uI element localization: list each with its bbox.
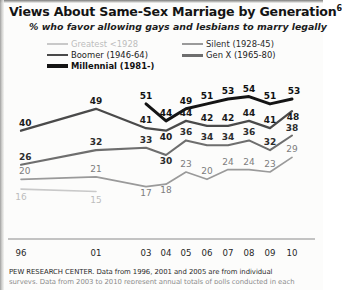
data-label: 33 — [140, 135, 153, 145]
legend-item-millennial: Millennial (1981-) — [47, 61, 154, 71]
x-tick-96: 96 — [16, 248, 27, 258]
legend-label-silent: Silent (1928-45) — [206, 39, 274, 49]
data-label: 23 — [180, 159, 191, 169]
data-label: 42 — [201, 113, 214, 123]
data-label: 40 — [160, 132, 173, 142]
series-line-greatest — [21, 189, 96, 191]
x-tick-09: 09 — [265, 248, 276, 258]
x-tick-06: 06 — [202, 248, 213, 258]
data-label: 36 — [180, 127, 193, 137]
x-tick-05: 05 — [181, 248, 192, 258]
legend-item-boomer: Boomer (1946-64) — [47, 50, 148, 60]
x-tick-03: 03 — [141, 248, 152, 258]
page-top-edge-artifact — [0, 0, 323, 3]
legend-swatch-silent-icon — [182, 43, 203, 45]
data-label: 54 — [243, 84, 256, 94]
data-label: 21 — [90, 164, 101, 174]
x-axis-tick-labels: 96010304050607080910 — [0, 248, 323, 262]
data-label: 51 — [264, 91, 277, 101]
x-tick-10: 10 — [287, 248, 298, 258]
x-tick-04: 04 — [161, 248, 172, 258]
data-label: 15 — [90, 195, 101, 205]
data-label: 23 — [264, 159, 275, 169]
data-label: 24 — [222, 157, 234, 167]
legend-label-boomer: Boomer (1946-64) — [71, 50, 148, 60]
data-label: 53 — [288, 86, 301, 96]
data-label: 53 — [222, 86, 235, 96]
legend-item-greatest: Greatest <1928 — [47, 39, 138, 49]
data-label: 49 — [180, 96, 193, 106]
data-label: 32 — [90, 137, 103, 147]
chart-footnote: PEW RESEARCH CENTER. Data from 1996, 200… — [9, 268, 315, 284]
legend-label-genx: Gen X (1965-80) — [206, 50, 276, 60]
data-label: 16 — [15, 192, 27, 202]
legend-label-millennial: Millennial (1981-) — [71, 61, 154, 71]
data-label: 41 — [264, 115, 277, 125]
chart-title: Views About Same-Sex Marriage by Generat… — [9, 4, 342, 19]
data-label: 17 — [140, 188, 151, 198]
data-label: 20 — [19, 166, 31, 176]
chart-title-text: Views About Same-Sex Marriage by Generat… — [9, 4, 337, 19]
data-label: 24 — [243, 157, 255, 167]
legend-swatch-boomer-icon — [47, 54, 68, 57]
data-label: 26 — [19, 152, 32, 162]
data-label: 51 — [140, 91, 153, 101]
data-label: 29 — [286, 144, 298, 154]
legend-swatch-millennial-icon — [47, 64, 68, 67]
data-label: 41 — [140, 115, 153, 125]
footnote-line-1: PEW RESEARCH CENTER. Data from 1996, 200… — [9, 268, 272, 276]
data-label: 32 — [264, 137, 277, 147]
data-label: 36 — [243, 127, 256, 137]
legend-item-genx: Gen X (1965-80) — [182, 50, 276, 60]
data-label: 34 — [222, 132, 235, 142]
data-label: 42 — [222, 113, 235, 123]
footnote-line-2-clipped: surveys. Data from 2003 to 2010 represen… — [9, 278, 315, 284]
x-tick-07: 07 — [223, 248, 234, 258]
data-label: 44 — [160, 108, 173, 118]
chart-title-footnote-marker: 6 — [337, 4, 342, 13]
data-label: 38 — [286, 123, 299, 133]
data-label: 49 — [90, 96, 103, 106]
data-label: 40 — [19, 118, 32, 128]
legend-swatch-genx-icon — [182, 54, 203, 57]
legend-label-greatest: Greatest <1928 — [71, 39, 138, 49]
data-label: 51 — [201, 91, 214, 101]
legend-item-silent: Silent (1928-45) — [182, 39, 274, 49]
x-tick-08: 08 — [244, 248, 255, 258]
data-label: 30 — [160, 156, 173, 166]
chart-subtitle: % who favor allowing gays and lesbians t… — [29, 21, 327, 32]
data-label: 20 — [201, 166, 213, 176]
data-label: 44 — [243, 108, 256, 118]
x-tick-01: 01 — [91, 248, 102, 258]
legend-swatch-greatest-icon — [47, 43, 68, 45]
line-chart-plot-area: 1615202117182320242423292632333036343436… — [0, 76, 323, 246]
data-label: 18 — [160, 185, 172, 195]
chart-legend: Greatest <1928 Silent (1928-45) Boomer (… — [0, 39, 323, 75]
data-label: 48 — [287, 112, 300, 122]
chart-svg: 1615202117182320242423292632333036343436… — [0, 76, 323, 246]
data-label: 34 — [201, 132, 214, 142]
